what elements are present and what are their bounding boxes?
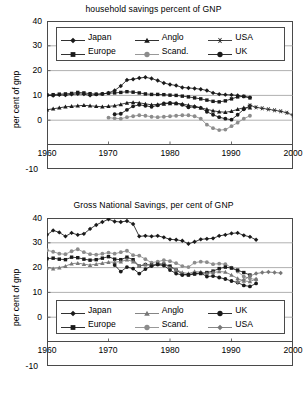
y-tick-30: 30 <box>18 41 42 50</box>
diamond-icon <box>60 32 86 43</box>
diamond-icon <box>60 305 86 316</box>
legend-label: Scand. <box>162 47 189 56</box>
legend-item-uk: UK <box>207 44 281 58</box>
triangle-icon <box>134 305 160 316</box>
axis-extension-box <box>47 342 293 366</box>
triangle-icon <box>134 32 160 43</box>
legend-label: Europe <box>88 320 116 329</box>
legend-label: Anglo <box>162 33 184 42</box>
y-tick-10: 10 <box>18 288 42 297</box>
square-icon <box>60 46 86 57</box>
circle-icon <box>207 305 233 316</box>
y-tick-0: 0 <box>18 313 42 322</box>
legend-label: Europe <box>88 47 116 56</box>
legend-item-anglo: Anglo <box>134 30 208 44</box>
legend-item-usa: USA <box>207 30 281 44</box>
chart-title: Gross National Savings, per cent of GNP <box>0 200 307 210</box>
legend-item-europe: Europe <box>60 317 134 331</box>
legend-label: Japan <box>88 33 111 42</box>
legend-item-japan: Japan <box>60 303 134 317</box>
y-tick-0: 0 <box>18 116 42 125</box>
legend-label: Anglo <box>162 306 184 315</box>
y-tick-40: 40 <box>18 17 42 26</box>
legend-item-uk: UK <box>207 303 281 317</box>
legend: JapanAngloUKEuropeScand.USA <box>56 300 285 334</box>
legend-item-scand: Scand. <box>134 317 208 331</box>
legend-item-japan: Japan <box>60 30 134 44</box>
y-tick-20: 20 <box>18 263 42 272</box>
y-tick-10: 10 <box>18 91 42 100</box>
diamond-icon <box>207 319 233 330</box>
square-icon <box>60 319 86 330</box>
legend-label: USA <box>235 33 253 42</box>
figure-root: household savings percent of GNP per cen… <box>0 0 307 394</box>
legend-label: UK <box>235 306 247 315</box>
chart-household-savings: household savings percent of GNP per cen… <box>0 0 307 196</box>
y-tick-neg10: -10 <box>14 362 38 371</box>
legend-item-anglo: Anglo <box>134 303 208 317</box>
y-tick-40: 40 <box>18 214 42 223</box>
legend: JapanAngloUSAEuropeScand.UK <box>56 27 285 61</box>
legend-item-scand: Scand. <box>134 44 208 58</box>
axis-extension-box <box>47 145 293 169</box>
legend-item-usa: USA <box>207 317 281 331</box>
legend-label: Japan <box>88 306 111 315</box>
circle-icon <box>134 319 160 330</box>
y-tick-20: 20 <box>18 66 42 75</box>
chart-gross-national-savings: Gross National Savings, per cent of GNP … <box>0 196 307 394</box>
legend-label: USA <box>235 320 253 329</box>
asterisk-icon <box>207 32 233 43</box>
circle-icon <box>207 46 233 57</box>
y-tick-30: 30 <box>18 238 42 247</box>
legend-label: Scand. <box>162 320 189 329</box>
chart-title: household savings percent of GNP <box>0 4 307 14</box>
circle-icon <box>134 46 160 57</box>
legend-label: UK <box>235 47 247 56</box>
legend-item-europe: Europe <box>60 44 134 58</box>
y-tick-neg10: -10 <box>14 165 38 174</box>
